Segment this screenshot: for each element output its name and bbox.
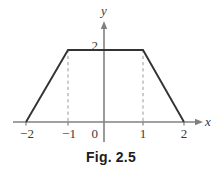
x-tick-label-minus1: −1 (59, 127, 79, 140)
x-tick-label-2: 2 (175, 127, 193, 140)
x-axis-label: x (205, 115, 211, 128)
y-axis-arrowhead (101, 21, 107, 29)
figure-container: y x 2 −2 −1 0 1 2 Fig. 2.5 (0, 0, 222, 174)
x-tick-label-1: 1 (134, 127, 152, 140)
x-tick-label-zero: 0 (86, 127, 98, 140)
x-tick-label-minus2: −2 (17, 127, 37, 140)
y-axis-label: y (101, 4, 107, 17)
trapezoid-curve (26, 50, 184, 122)
plot-canvas (0, 0, 222, 174)
figure-caption: Fig. 2.5 (0, 149, 222, 165)
x-axis-arrowhead (195, 119, 203, 125)
y-tick-label-2: 2 (86, 39, 98, 52)
